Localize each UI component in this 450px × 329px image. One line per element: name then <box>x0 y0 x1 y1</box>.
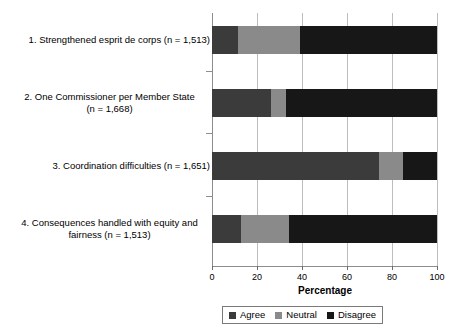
x-tick-label-100: 100 <box>422 272 450 283</box>
category-label-2: 2. One Commissioner per Member State (n … <box>7 91 212 115</box>
bar-row-3 <box>212 152 437 180</box>
bar-segment-disagree <box>403 152 437 180</box>
category-label-4-line-2: fairness (n = 1,513) <box>7 229 212 241</box>
bar-segment-agree <box>212 215 241 243</box>
bar-segment-agree <box>212 152 379 180</box>
x-axis-tick-0 <box>212 266 213 270</box>
x-tick-label-0: 0 <box>197 272 227 283</box>
legend-item-disagree[interactable]: Disagree <box>327 309 376 321</box>
bar-segment-neutral <box>238 26 300 54</box>
gridline-100 <box>437 13 438 266</box>
category-label-4: 4. Consequences handled with equity and … <box>7 217 212 241</box>
bar-segment-neutral <box>241 215 288 243</box>
category-label-3: 3. Coordination difficulties (n = 1,651) <box>5 160 210 172</box>
bar-row-4 <box>212 215 437 243</box>
legend-item-agree[interactable]: Agree <box>229 309 265 321</box>
agree-swatch-icon <box>229 312 236 319</box>
category-label-1: 1. Strengthened esprit de corps (n = 1,5… <box>5 34 210 46</box>
x-axis-tick-40 <box>302 266 303 270</box>
x-tick-label-40: 40 <box>287 272 317 283</box>
category-label-1-line-1: 1. Strengthened esprit de corps (n = 1,5… <box>5 34 210 46</box>
bar-row-1 <box>212 26 437 54</box>
category-label-3-line-1: 3. Coordination difficulties (n = 1,651) <box>5 160 210 172</box>
x-tick-label-80: 80 <box>377 272 407 283</box>
bar-segment-disagree <box>289 215 438 243</box>
bar-row-2 <box>212 89 437 117</box>
category-label-2-line-1: 2. One Commissioner per Member State <box>7 91 212 103</box>
x-axis-tick-100 <box>437 266 438 270</box>
bar-segment-disagree <box>286 89 437 117</box>
y-axis-tick-3 <box>206 196 212 197</box>
bar-segment-neutral <box>379 152 404 180</box>
bar-segment-disagree <box>300 26 437 54</box>
legend-item-neutral[interactable]: Neutral <box>275 309 317 321</box>
x-axis-tick-20 <box>257 266 258 270</box>
legend-label-neutral: Neutral <box>286 309 317 321</box>
bar-segment-neutral <box>271 89 287 117</box>
x-axis-title: Percentage <box>212 285 438 296</box>
y-axis-tick-2 <box>206 133 212 134</box>
category-label-2-line-2: (n = 1,668) <box>7 103 212 115</box>
legend-label-disagree: Disagree <box>338 309 376 321</box>
x-axis-tick-80 <box>392 266 393 270</box>
stacked-bar-chart: 0 20 40 60 80 100 Percentage 1. Strength… <box>0 0 450 329</box>
y-axis-tick-1 <box>206 71 212 72</box>
neutral-swatch-icon <box>275 312 282 319</box>
chart-legend: Agree Neutral Disagree <box>222 306 383 324</box>
x-tick-label-20: 20 <box>242 272 272 283</box>
x-axis-tick-60 <box>347 266 348 270</box>
category-label-4-line-1: 4. Consequences handled with equity and <box>7 217 212 229</box>
bar-segment-agree <box>212 26 238 54</box>
legend-label-agree: Agree <box>240 309 265 321</box>
disagree-swatch-icon <box>327 312 334 319</box>
x-axis-line <box>212 266 438 267</box>
x-tick-label-60: 60 <box>332 272 362 283</box>
bar-segment-agree <box>212 89 271 117</box>
